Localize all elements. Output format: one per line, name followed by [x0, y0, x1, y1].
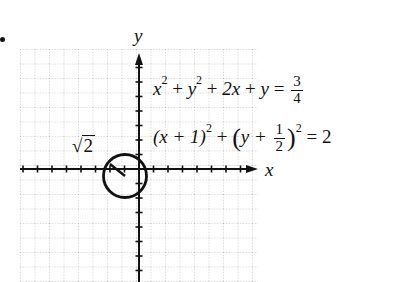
equation-general-form: x2 + y2 + 2x + y = 34: [153, 74, 305, 107]
open-paren: (: [232, 123, 241, 152]
plus: +: [207, 78, 218, 99]
plus: +: [245, 78, 256, 99]
term-y: y: [260, 78, 268, 99]
exponent: 2: [296, 121, 302, 135]
close-paren: ): [287, 123, 296, 152]
circle-graph-figure: y x √2 x2 + y2 + 2x + y = 34 (x + 1)2 + …: [0, 0, 404, 282]
term-y-plus: y +: [241, 126, 267, 147]
exponent: 2: [161, 73, 167, 87]
fraction-one-half: 12: [274, 122, 286, 155]
term-x-plus-1: (x + 1): [153, 126, 206, 147]
sqrt-symbol: √: [72, 135, 82, 156]
exponent: 2: [196, 73, 202, 87]
x-axis-label: x: [265, 160, 273, 179]
fraction-three-quarters: 34: [291, 74, 303, 107]
term-2x: 2x: [222, 78, 240, 99]
radius-label: √2: [72, 135, 95, 155]
equals-two: = 2: [307, 126, 332, 147]
plus: +: [172, 78, 183, 99]
y-axis-label: y: [134, 26, 142, 45]
exponent: 2: [206, 121, 212, 135]
equation-standard-form: (x + 1)2 + (y + 12)2 = 2: [153, 122, 331, 155]
plus: +: [217, 126, 228, 147]
radicand: 2: [82, 135, 95, 155]
term-y: y: [188, 78, 196, 99]
equals: =: [274, 78, 285, 99]
